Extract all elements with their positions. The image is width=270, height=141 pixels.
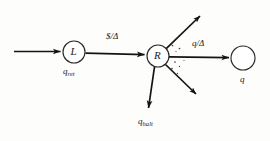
state-label-q-halt: qhalt: [138, 117, 153, 126]
edge-R-to-halt: [149, 67, 155, 108]
state-label-q-ret-subscript: ret: [68, 70, 75, 77]
node-L-label: L: [71, 46, 77, 57]
edge-R-to-q: [169, 57, 229, 58]
diagram-canvas: [0, 0, 270, 141]
ellipsis-marks: [171, 45, 184, 75]
node-R-label: R: [154, 50, 161, 61]
state-transition-diagram: L R qret q qhalt $/Δ q/Δ: [0, 0, 270, 141]
state-label-q-base: q: [240, 74, 245, 84]
state-label-q-ret-base: q: [63, 66, 68, 76]
node-q: [231, 46, 255, 70]
state-label-q-ret: qret: [63, 67, 75, 76]
edge-L-to-R: [86, 53, 145, 54]
edge-label-q-delta: q/Δ: [192, 39, 204, 48]
edge-R-down-right: [166, 65, 197, 95]
state-label-q-halt-base: q: [138, 116, 143, 126]
state-label-q-halt-subscript: halt: [143, 120, 154, 127]
state-label-q: q: [240, 75, 245, 84]
edge-label-dollar-delta: $/Δ: [106, 32, 118, 41]
